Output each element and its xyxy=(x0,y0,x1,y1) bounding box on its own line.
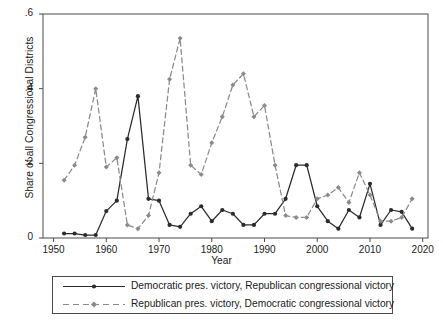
x-tick-label: 2000 xyxy=(297,244,337,255)
data-point xyxy=(252,223,256,227)
data-point xyxy=(347,208,351,212)
data-point xyxy=(262,212,266,216)
data-point xyxy=(273,212,277,216)
series-line-1 xyxy=(64,96,412,235)
data-point xyxy=(210,219,214,223)
data-point xyxy=(220,114,225,119)
legend-label-series1: Democratic pres. victory, Republican con… xyxy=(131,280,394,291)
legend-label-series2: Republican pres. victory, Democratic con… xyxy=(131,298,394,309)
data-point xyxy=(410,227,414,231)
data-point xyxy=(400,210,404,214)
data-point xyxy=(231,212,235,216)
data-point xyxy=(83,233,87,237)
data-point xyxy=(367,193,372,198)
data-point xyxy=(357,170,362,175)
x-tick-label: 1950 xyxy=(34,244,74,255)
x-tick-label: 1990 xyxy=(245,244,285,255)
data-point xyxy=(146,197,150,201)
data-point xyxy=(209,140,214,145)
data-point xyxy=(157,199,161,203)
data-point xyxy=(410,196,415,201)
data-point xyxy=(294,163,298,167)
y-tick-label: .4 xyxy=(11,82,33,93)
data-point xyxy=(241,223,245,227)
data-point xyxy=(346,200,351,205)
data-point xyxy=(305,163,309,167)
legend-key-solid-line-icon xyxy=(61,277,127,296)
data-point xyxy=(167,77,172,82)
legend-key-dashed-line-icon xyxy=(61,295,127,314)
data-point xyxy=(199,204,203,208)
x-tick-label: 2010 xyxy=(350,244,390,255)
plot-area xyxy=(0,0,443,320)
data-point xyxy=(220,208,224,212)
data-point xyxy=(368,182,372,186)
data-point xyxy=(336,227,340,231)
data-point xyxy=(62,231,66,235)
data-point xyxy=(357,215,361,219)
data-point xyxy=(284,197,288,201)
data-point xyxy=(326,219,330,223)
data-point xyxy=(389,208,393,212)
data-point xyxy=(104,209,108,213)
data-point xyxy=(136,94,140,98)
data-point xyxy=(315,204,319,208)
data-point xyxy=(283,213,288,218)
data-point xyxy=(178,36,183,41)
data-point xyxy=(294,215,299,220)
chart-legend: Democratic pres. victory, Republican con… xyxy=(52,276,393,314)
data-point xyxy=(94,233,98,237)
data-point xyxy=(73,231,77,235)
data-point xyxy=(93,86,98,91)
legend-item-series1: Democratic pres. victory, Republican con… xyxy=(53,277,392,296)
x-tick-label: 1960 xyxy=(86,244,126,255)
data-point xyxy=(72,163,77,168)
y-tick-label: .6 xyxy=(11,7,33,18)
data-point xyxy=(167,223,171,227)
x-tick-label: 1970 xyxy=(139,244,179,255)
data-point xyxy=(389,219,394,224)
data-point xyxy=(273,163,278,168)
x-tick-label: 2020 xyxy=(403,244,443,255)
data-point xyxy=(125,222,130,227)
data-point xyxy=(115,199,119,203)
x-tick-label: 1980 xyxy=(192,244,232,255)
data-point xyxy=(146,213,151,218)
y-tick-label: .2 xyxy=(11,156,33,167)
data-point xyxy=(125,137,129,141)
legend-item-series2: Republican pres. victory, Democratic con… xyxy=(53,295,392,314)
data-point xyxy=(83,135,88,140)
data-point xyxy=(157,170,162,175)
chart-figure: Share of all Congressional Districts Yea… xyxy=(0,0,443,320)
data-point xyxy=(304,215,309,220)
data-point xyxy=(325,193,330,198)
data-point xyxy=(178,225,182,229)
data-point xyxy=(189,212,193,216)
y-tick-label: 0 xyxy=(11,231,33,242)
